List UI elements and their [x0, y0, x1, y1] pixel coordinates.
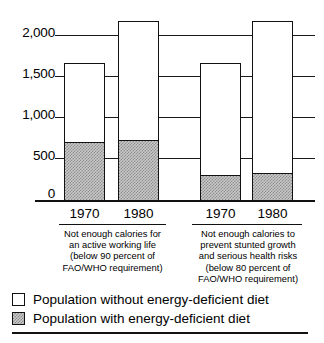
group-a-rule [59, 224, 166, 225]
bar-group-b-1980 [252, 21, 293, 200]
bar-group-a-1970 [64, 63, 105, 200]
bar-group-a-1980 [118, 21, 159, 200]
plot-area: 2,000 1,500 1,000 500 0 [0, 0, 324, 205]
legend-bottom-rule [12, 332, 308, 334]
legend-swatch-empty-icon [12, 293, 25, 306]
legend-item-with-deficient: Population with energy-deficient diet [0, 309, 324, 328]
ytick-label-0: 0 [48, 187, 55, 201]
xtick-label-group-a-1980: 1980 [112, 207, 165, 221]
legend-swatch-shaded-icon [12, 312, 25, 325]
ytick-label-1000: 1,000 [22, 108, 55, 122]
group-b-caption: Not enough calories to prevent stunted g… [182, 228, 314, 284]
ytick-label-2000: 2,000 [22, 26, 55, 40]
legend-label-without-deficient: Population without energy-deficient diet [33, 292, 269, 307]
group-a-caption: Not enough calories for an active workin… [44, 228, 181, 273]
x-axis-baseline [35, 200, 315, 202]
xtick-label-group-a-1970: 1970 [58, 207, 111, 221]
bar-segment-with-deficient [252, 173, 293, 201]
bar-group-b-1970 [200, 63, 241, 200]
legend-item-without-deficient: Population without energy-deficient diet [0, 290, 324, 309]
group-a-caption-line-2: an active working life [44, 239, 181, 250]
xtick-label-group-b-1980: 1980 [246, 207, 299, 221]
group-a-caption-line-3: (below 90 percent of [44, 250, 181, 261]
group-b-caption-line-4: (below 80 percent of [182, 262, 314, 273]
group-a-caption-line-4: FAO/WHO requirement) [44, 262, 181, 273]
bar-segment-with-deficient [118, 140, 159, 201]
group-b-caption-line-1: Not enough calories to [182, 228, 314, 239]
stacked-bar-chart: 2,000 1,500 1,000 500 0 1970 [0, 0, 324, 343]
ytick-label-1500: 1,500 [22, 67, 55, 81]
chart-legend: Population without energy-deficient diet… [0, 290, 324, 328]
group-a-caption-line-1: Not enough calories for [44, 228, 181, 239]
group-b-caption-line-3: and serious health risks [182, 250, 314, 261]
bar-segment-with-deficient [64, 142, 105, 201]
bar-segment-with-deficient [200, 175, 241, 201]
xtick-label-group-b-1970: 1970 [194, 207, 247, 221]
group-b-caption-line-2: prevent stunted growth [182, 239, 314, 250]
group-b-rule [192, 224, 302, 225]
ytick-label-500: 500 [33, 149, 55, 163]
legend-label-with-deficient: Population with energy-deficient diet [33, 311, 250, 326]
group-b-caption-line-5: FAO/WHO requirement) [182, 273, 314, 284]
